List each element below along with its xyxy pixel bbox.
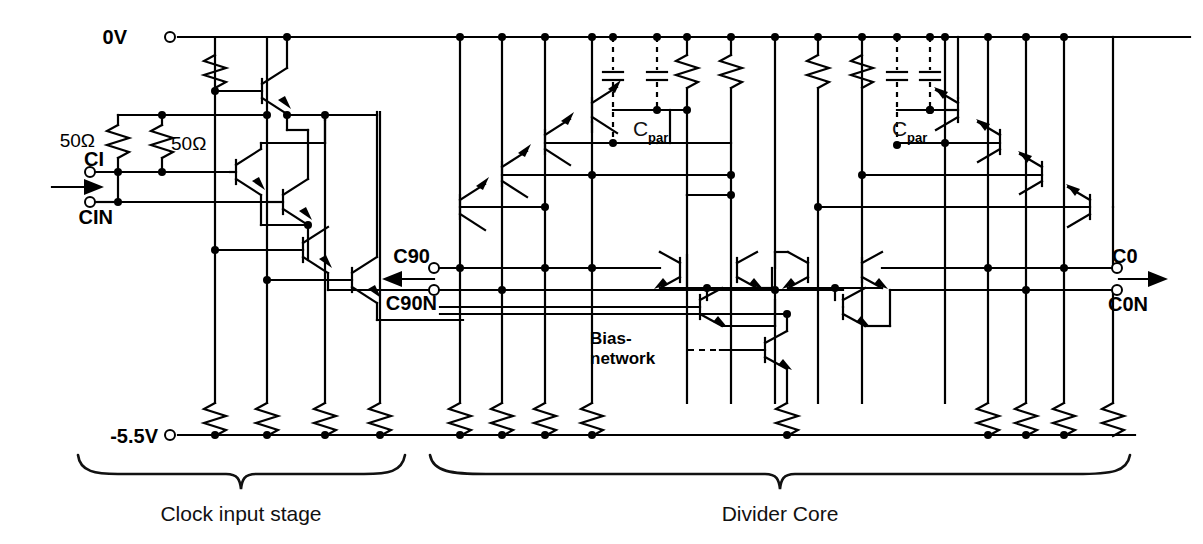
resistor-label-50ohm-left: 50Ω — [60, 130, 95, 151]
core-left-verticals — [456, 33, 596, 403]
input-lines — [96, 168, 267, 206]
transistor-q3-diffpair-right — [261, 130, 312, 260]
bracket-divider-core — [430, 455, 1130, 489]
core-left-pair-tail — [660, 284, 757, 300]
bracket-label-divider-core: Divider Core — [722, 502, 839, 525]
bias-network-line1: Bias- — [590, 329, 632, 348]
arrow-c0-direction — [1119, 271, 1168, 287]
transistor-core-left-pair-a — [440, 252, 687, 290]
transistor-core-right-ef3 — [858, 151, 1042, 194]
rail-label-0v: 0V — [103, 26, 128, 48]
arrow-input-direction — [52, 179, 104, 195]
capacitor-label-cpar-left: C par — [633, 117, 668, 145]
termination-bus — [118, 111, 271, 119]
resistor-bank-clock-stage — [204, 403, 391, 439]
arrow-c90-direction — [382, 271, 434, 287]
capacitor-cpar-right-2 — [920, 33, 940, 114]
transistor-core-right-pair-a — [775, 252, 808, 289]
port-label-ci: CI — [84, 148, 104, 170]
capacitor-cpar-left-2 — [647, 33, 667, 114]
transistor-core-left-clock — [440, 288, 775, 327]
rail-label-neg55v: -5.5V — [110, 425, 158, 447]
resistor-bank-core-left-top — [676, 33, 742, 403]
resistor-50ohm-left — [107, 115, 129, 172]
resistor-label-50ohm-right: 50Ω — [171, 133, 206, 154]
port-label-c0: C0 — [1112, 245, 1138, 267]
port-label-cin: CIN — [79, 206, 113, 228]
port-c90[interactable] — [429, 263, 439, 273]
circuit-schematic-canvas: 0V -5.5V CI CIN C90 C90N C0 C0N 50Ω 50Ω … — [0, 0, 1203, 544]
port-label-c0n: C0N — [1108, 293, 1148, 315]
transistor-core-left-ef4 — [460, 177, 549, 230]
capacitor-label-cpar-right: C par — [892, 117, 927, 145]
bracket-label-clock-input-stage: Clock input stage — [160, 502, 321, 525]
schematic-figure: 0V -5.5V CI CIN C90 C90N C0 C0N 50Ω 50Ω … — [0, 0, 1203, 544]
transistor-core-left-ef3 — [502, 144, 735, 197]
transistor-core-right-ef4 — [814, 184, 1113, 227]
annotation-bias-network: Bias- network — [590, 329, 656, 368]
cpar-base-left: C — [633, 117, 648, 140]
resistor-50ohm-right — [151, 115, 173, 172]
core-right-verticals — [771, 33, 1113, 403]
port-label-c90n: C90N — [386, 292, 437, 314]
transistor-core-left-pair-b — [737, 252, 772, 289]
bracket-clock-input-stage — [78, 455, 405, 489]
cpar-sub-right: par — [907, 130, 927, 145]
port-label-c90: C90 — [393, 245, 430, 267]
transistor-q2-diffpair-left — [230, 143, 325, 225]
cpar-sub-left: par — [648, 130, 668, 145]
bias-network-line2: network — [590, 349, 656, 368]
cpar-base-right: C — [892, 117, 907, 140]
core-left-crosscouple — [670, 143, 735, 199]
core-right-pair-tail — [788, 284, 882, 300]
rail-0v — [165, 32, 1190, 42]
